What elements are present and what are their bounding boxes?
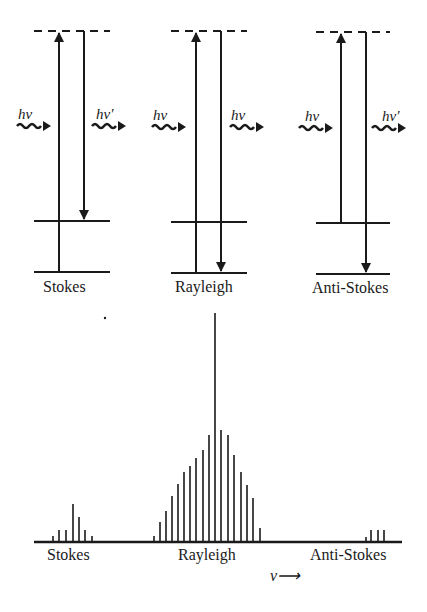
frequency-axis-label: ν⟶ (270, 566, 300, 585)
rayleigh-energy-diagram (152, 31, 264, 273)
scattered-photon-wave-icon (230, 125, 254, 129)
incident-photon-label: hν (18, 106, 32, 123)
spectrum-stokes-label: Stokes (47, 546, 90, 564)
stokes-energy-diagram (17, 31, 126, 272)
anti-stokes-diagram-label: Anti-Stokes (312, 279, 388, 297)
incident-photon-arrowhead-icon (43, 121, 51, 131)
scattered-photon-label: hν (231, 107, 245, 124)
raman-diagram (0, 0, 427, 612)
scattered-photon-arrowhead-icon (118, 121, 126, 131)
scattered-photon-label: hν′ (382, 108, 399, 125)
incident-photon-label: hν (153, 107, 167, 124)
incident-photon-label: hν (305, 108, 319, 125)
spectrum-anti-stokes-label: Anti-Stokes (310, 546, 386, 564)
stokes-diagram-label: Stokes (43, 278, 86, 296)
scattered-photon-wave-icon (92, 124, 116, 128)
rayleigh-diagram-label: Rayleigh (175, 278, 233, 296)
incident-photon-wave-icon (152, 125, 176, 129)
stray-dot (104, 317, 106, 319)
spectrum-plot (34, 313, 402, 542)
incident-photon-arrowhead-icon (178, 122, 186, 132)
scattered-photon-wave-icon (372, 126, 396, 130)
scattered-photon-label: hν′ (96, 106, 113, 123)
incident-photon-wave-icon (299, 126, 323, 130)
spectrum-rayleigh-label: Rayleigh (178, 546, 236, 564)
anti-stokes-energy-diagram (299, 32, 406, 274)
spectrum-lines (53, 313, 384, 541)
incident-photon-arrowhead-icon (325, 123, 333, 133)
incident-photon-wave-icon (17, 124, 41, 128)
scattered-photon-arrowhead-icon (256, 122, 264, 132)
